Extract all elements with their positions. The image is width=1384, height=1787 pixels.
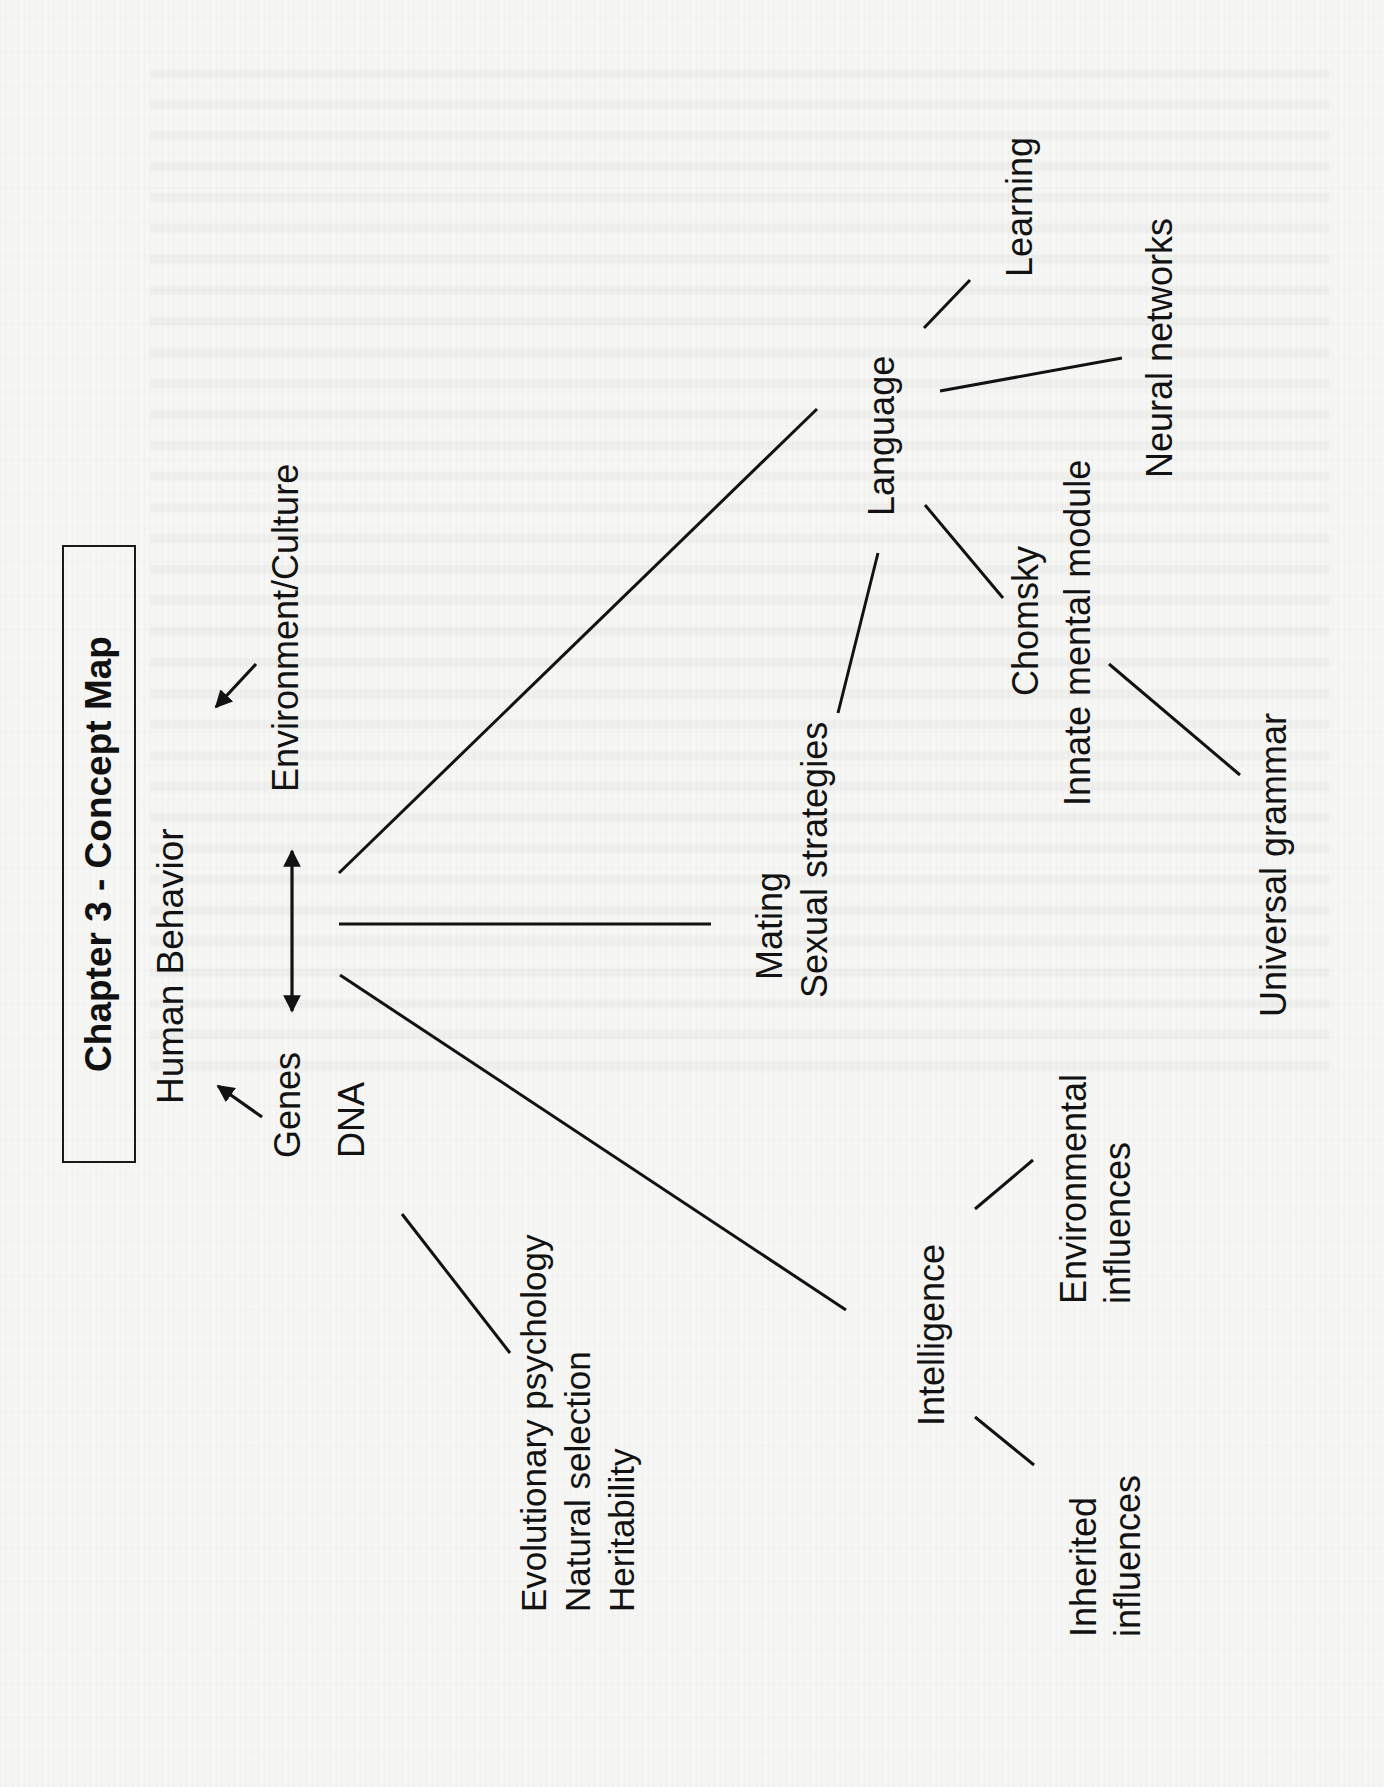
node-mating: Mating (750, 872, 790, 980)
node-universal-grammar: Universal grammar (1254, 713, 1294, 1017)
scanned-page: Chapter 3 - Concept Map Human Behavior E… (0, 0, 1384, 1787)
arrow-environment-culture-to-human-behavior (216, 664, 256, 707)
connector-genes-to-language (339, 409, 817, 873)
node-sexual-strategies: Sexual strategies (795, 722, 835, 998)
node-chomsky: Chomsky (1006, 546, 1046, 696)
node-environmental-influences: Environmental influences (1052, 1074, 1140, 1304)
node-intelligence: Intelligence (912, 1244, 952, 1426)
node-genes: Genes (268, 1052, 308, 1158)
node-dna: DNA (332, 1082, 372, 1158)
connector-intelligence-to-inherited-influences (975, 1417, 1034, 1465)
connector-sexual-strategies-to-language (838, 553, 878, 713)
connector-language-to-chomsky (925, 505, 1003, 598)
node-learning: Learning (1000, 137, 1040, 277)
connector-language-to-learning (924, 280, 970, 328)
connector-language-to-neural-networks (940, 358, 1122, 391)
node-human-behavior: Human Behavior (150, 828, 191, 1104)
concept-map-title: Chapter 3 - Concept Map (62, 545, 136, 1163)
node-neural-networks: Neural networks (1140, 218, 1180, 478)
arrow-genes-to-human-behavior (218, 1086, 262, 1117)
connector-innate-mental-module-to-universal-grammar (1109, 664, 1240, 775)
node-innate-mental-module: Innate mental module (1058, 460, 1098, 806)
node-evolution-group: Evolutionary psychology Natural selectio… (512, 1235, 644, 1612)
connector-dna-to-evolutionary-psychology (402, 1214, 510, 1353)
node-inherited-influences: Inherited influences (1062, 1475, 1150, 1637)
node-language: Language (862, 356, 902, 516)
node-environment-culture: Environment/Culture (266, 464, 306, 792)
connector-intelligence-to-environmental-influences (975, 1160, 1033, 1209)
title-text: Chapter 3 - Concept Map (78, 636, 120, 1072)
